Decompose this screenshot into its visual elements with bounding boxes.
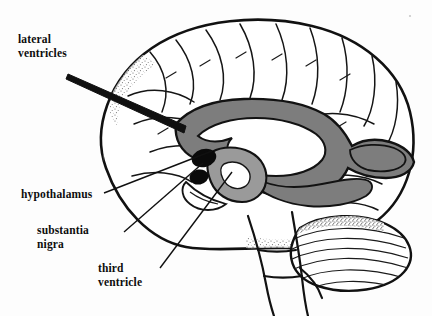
label-substantia-nigra: substantia nigra — [37, 224, 89, 251]
label-substantia-nigra-line2: nigra — [37, 238, 89, 252]
label-third-ventricle-line2: ventricle — [98, 276, 142, 290]
scan-speck — [409, 15, 411, 17]
cerebellum — [286, 214, 411, 291]
label-hypothalamus: hypothalamus — [21, 188, 92, 202]
label-third-ventricle: third ventricle — [98, 262, 142, 289]
brain-diagram-figure: lateral ventricles hypothalamus substant… — [0, 0, 432, 316]
label-third-ventricle-line1: third — [98, 262, 142, 276]
label-substantia-nigra-line1: substantia — [37, 224, 89, 238]
label-lateral-ventricles-line2: ventricles — [18, 47, 67, 61]
label-hypothalamus-line1: hypothalamus — [21, 188, 92, 202]
label-lateral-ventricles-line1: lateral — [18, 33, 67, 47]
label-lateral-ventricles: lateral ventricles — [18, 33, 67, 60]
